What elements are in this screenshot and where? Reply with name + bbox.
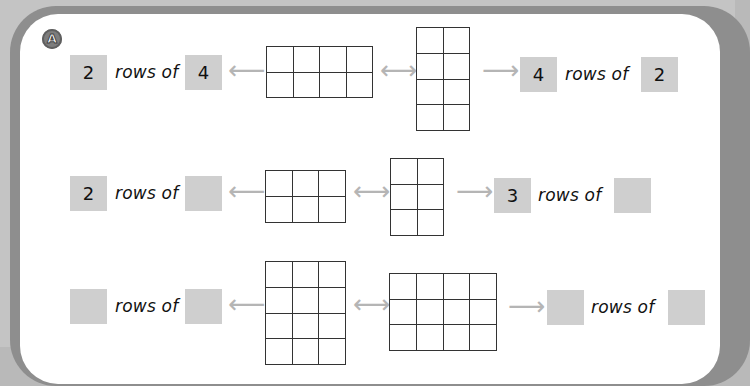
answer-box-row3-left-cols[interactable]: [185, 289, 222, 324]
answer-box-row2-left-rows[interactable]: 2: [70, 176, 107, 211]
rows-of-label: rows of: [115, 289, 178, 324]
array-grid-3x2: [390, 158, 444, 236]
rows-of-label: rows of: [538, 178, 601, 213]
answer-box-row3-right-rows[interactable]: [547, 290, 584, 325]
array-grid-3x4: [389, 273, 497, 351]
answer-box-row1-right-cols[interactable]: 2: [641, 57, 678, 92]
left-arrow-icon: ⟵: [228, 53, 265, 88]
answer-box-row1-right-rows[interactable]: 4: [520, 57, 557, 92]
rows-of-label: rows of: [115, 176, 178, 211]
answer-box-row3-left-rows[interactable]: [70, 289, 107, 324]
answer-box-row2-right-cols[interactable]: [614, 178, 651, 213]
array-grid-2x3: [265, 170, 346, 223]
array-grid-4x2: [416, 27, 470, 131]
left-arrow-icon: ⟵: [228, 174, 265, 209]
answer-box-row2-right-rows[interactable]: 3: [494, 178, 531, 213]
array-grid-2x4: [266, 46, 373, 98]
double-arrow-icon: ⟷: [353, 287, 390, 322]
answer-box-row1-left-cols[interactable]: 4: [185, 55, 222, 90]
right-arrow-icon: ⟶: [482, 53, 519, 88]
array-grid-4x3: [265, 261, 346, 365]
answer-box-row3-right-cols[interactable]: [668, 290, 705, 325]
right-arrow-icon: ⟶: [456, 174, 493, 209]
double-arrow-icon: ⟷: [353, 174, 390, 209]
rows-of-label: rows of: [565, 57, 628, 92]
answer-box-row1-left-rows[interactable]: 2: [70, 55, 107, 90]
left-arrow-icon: ⟵: [228, 287, 265, 322]
right-arrow-icon: ⟶: [508, 289, 545, 324]
answer-box-row2-left-cols[interactable]: [185, 176, 222, 211]
section-badge: A: [42, 29, 62, 49]
rows-of-label: rows of: [591, 290, 654, 325]
rows-of-label: rows of: [115, 55, 178, 90]
double-arrow-icon: ⟷: [380, 53, 417, 88]
